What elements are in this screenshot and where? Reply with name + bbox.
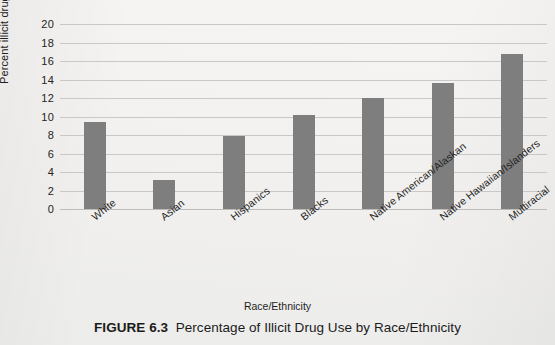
y-axis-title: Percent illicit drug use [0,0,10,84]
y-axis-tick-label: 18 [28,38,54,49]
y-axis-tick-label: 16 [28,56,54,67]
x-axis-title: Race/Ethnicity [0,300,555,312]
bar [223,136,245,209]
figure-title: Percentage of Illicit Drug Use by Race/E… [176,320,461,335]
y-axis-tick-label: 20 [28,19,54,30]
y-axis-tick-label: 2 [28,186,54,197]
y-axis-tick-label: 10 [28,112,54,123]
figure-number: FIGURE 6.3 [94,320,168,335]
bar [362,98,384,209]
bar [432,83,454,209]
y-axis-tick-label: 8 [28,130,54,141]
figure-bar-chart: Percent illicit drug use 024681012141618… [0,0,555,305]
plot-area: 02468101214161820 [60,24,547,209]
y-axis-tick-label: 14 [28,75,54,86]
bar [293,115,315,209]
bar [84,122,106,209]
bar-series [60,24,547,209]
y-axis-tick-label: 0 [28,204,54,215]
y-axis-tick-label: 4 [28,167,54,178]
y-axis-tick-label: 12 [28,93,54,104]
bar [501,54,523,209]
figure-caption: FIGURE 6.3 Percentage of Illicit Drug Us… [0,320,555,335]
y-axis-tick-label: 6 [28,149,54,160]
